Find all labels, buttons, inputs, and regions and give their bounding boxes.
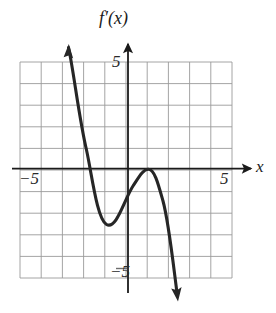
curve-arrow-up-left: [64, 44, 74, 59]
y-tick-label-positive-five: 5: [112, 53, 121, 70]
y-tick-label-negative-five: −5: [110, 263, 130, 280]
grid: [20, 62, 232, 278]
graph-figure: f′(x) x −5 5 5 −5: [0, 0, 276, 313]
plot-area: [0, 0, 276, 313]
curve-function-label: f′(x): [99, 9, 128, 27]
x-tick-label-positive-five: 5: [220, 170, 229, 187]
x-tick-label-negative-five: −5: [19, 170, 39, 187]
x-axis-label: x: [256, 158, 264, 175]
